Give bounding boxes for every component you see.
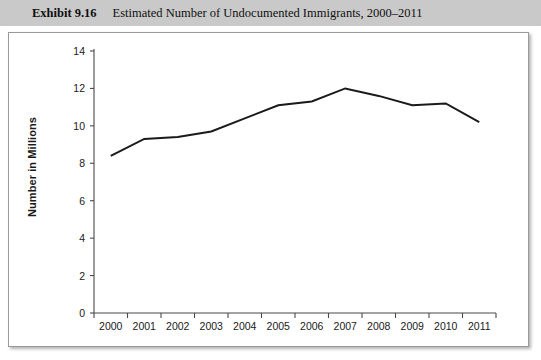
x-tick-label: 2002 — [161, 321, 195, 332]
x-tick-label: 2007 — [329, 321, 363, 332]
y-tick-label: 4 — [61, 233, 85, 243]
x-tick-label: 2003 — [195, 321, 229, 332]
y-tick-label: 8 — [61, 158, 85, 168]
axes-group — [94, 49, 496, 313]
y-tick-label: 6 — [61, 196, 85, 206]
chart-canvas — [9, 33, 530, 348]
x-tick-label: 2001 — [128, 321, 162, 332]
x-tick-label: 2000 — [94, 321, 128, 332]
y-tick-label: 2 — [61, 271, 85, 281]
x-tick-label: 2009 — [396, 321, 430, 332]
tick-marks — [90, 51, 496, 318]
chart-panel: Number in Millions 02468101214 200020012… — [8, 32, 529, 347]
x-tick-label: 2010 — [429, 321, 463, 332]
y-tick-label: 12 — [61, 83, 85, 93]
x-tick-label: 2011 — [463, 321, 497, 332]
data-series-line — [111, 88, 480, 155]
x-tick-label: 2005 — [262, 321, 296, 332]
x-tick-label: 2006 — [295, 321, 329, 332]
line-chart: Number in Millions 02468101214 200020012… — [9, 33, 530, 348]
x-tick-label: 2008 — [362, 321, 396, 332]
y-tick-label: 14 — [61, 46, 85, 56]
y-tick-label: 10 — [61, 121, 85, 131]
x-tick-label: 2004 — [228, 321, 262, 332]
y-tick-label: 0 — [61, 308, 85, 318]
exhibit-title: Estimated Number of Undocumented Immigra… — [113, 6, 423, 21]
exhibit-header: Exhibit 9.16 Estimated Number of Undocum… — [0, 0, 541, 26]
exhibit-number: Exhibit 9.16 — [32, 6, 97, 21]
